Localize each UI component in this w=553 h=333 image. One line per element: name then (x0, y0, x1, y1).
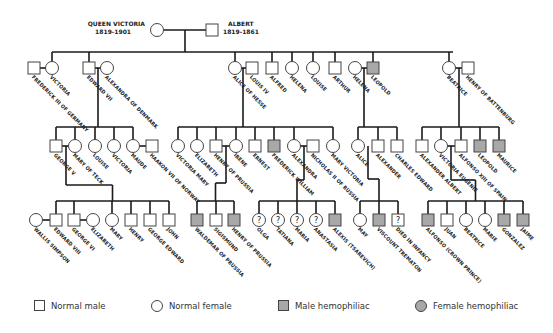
female-normal-symbol (349, 62, 362, 75)
queen-victoria-years: 1819-1901 (55, 28, 145, 36)
male-normal-symbol (416, 140, 428, 152)
shaded-circle-icon (415, 300, 427, 312)
legend: Normal male Normal female Male hemophili… (0, 300, 553, 320)
male-normal-symbol (28, 62, 40, 74)
queen-victoria-symbol (151, 24, 164, 37)
legend-label: Male hemophiliac (295, 301, 370, 311)
legend-normal-male: Normal male (34, 300, 106, 311)
male-normal-symbol (372, 140, 384, 152)
legend-male-hemophiliac: Male hemophiliac (278, 300, 370, 311)
male-affected-symbol (268, 140, 280, 152)
male-normal-symbol (391, 140, 403, 152)
male-affected-symbol (493, 140, 505, 152)
male-affected-symbol (191, 214, 203, 226)
female-normal-symbol (352, 140, 365, 153)
male-affected-symbol (517, 214, 529, 226)
albert-years: 1819-1861 (223, 28, 259, 36)
male-affected-symbol (474, 140, 486, 152)
legend-label: Female hemophiliac (433, 301, 518, 311)
male-normal-symbol (210, 214, 222, 226)
male-normal-symbol (455, 140, 467, 152)
female-normal-symbol (101, 62, 114, 75)
male-normal-symbol (307, 140, 319, 152)
pedigree-lines (40, 30, 523, 220)
legend-normal-female: Normal female (151, 300, 232, 312)
question-mark-icon: ? (257, 216, 261, 225)
male-affected-symbol (329, 214, 341, 226)
male-normal-symbol (441, 214, 453, 226)
female-normal-symbol (30, 214, 43, 227)
male-normal-symbol (210, 140, 222, 152)
female-normal-symbol (108, 140, 121, 153)
question-mark-icon: ? (396, 216, 400, 225)
female-normal-symbol (191, 140, 204, 153)
female-normal-symbol (286, 62, 299, 75)
female-normal-symbol (354, 214, 367, 227)
female-normal-symbol (46, 62, 59, 75)
male-normal-symbol (144, 214, 156, 226)
male-normal-symbol (50, 140, 62, 152)
circle-icon (151, 300, 163, 312)
legend-label: Normal male (51, 301, 106, 311)
male-affected-symbol (228, 214, 240, 226)
legend-female-hemophiliac: Female hemophiliac (415, 300, 518, 312)
male-normal-symbol (68, 214, 80, 226)
male-normal-symbol (146, 140, 158, 152)
female-normal-symbol (288, 140, 301, 153)
female-normal-symbol (307, 62, 320, 75)
female-normal-symbol (230, 140, 243, 153)
male-affected-symbol (367, 62, 379, 74)
male-affected-symbol (422, 214, 434, 226)
queen-victoria-name: QUEEN VICTORIA (55, 20, 145, 28)
male-normal-symbol (163, 214, 175, 226)
female-normal-symbol (327, 140, 340, 153)
female-normal-symbol (460, 214, 473, 227)
male-normal-symbol (125, 214, 137, 226)
legend-label: Normal female (169, 301, 232, 311)
male-affected-symbol (373, 214, 385, 226)
founder-female-label: QUEEN VICTORIA 1819-1901 (55, 20, 145, 36)
female-normal-symbol (229, 62, 242, 75)
female-normal-symbol (106, 214, 119, 227)
pedigree-symbols: ????? (28, 24, 529, 227)
male-normal-symbol (246, 62, 258, 74)
question-mark-icon: ? (276, 216, 280, 225)
albert-name: ALBERT (223, 20, 259, 28)
female-normal-symbol (443, 62, 456, 75)
male-normal-symbol (266, 62, 278, 74)
male-normal-symbol (249, 140, 261, 152)
founder-male-label: ALBERT 1819-1861 (223, 20, 259, 36)
albert-symbol (206, 24, 218, 36)
female-normal-symbol (479, 214, 492, 227)
shaded-square-icon (278, 300, 289, 311)
female-normal-symbol (69, 140, 82, 153)
female-normal-symbol (435, 140, 448, 153)
female-normal-symbol (87, 214, 100, 227)
square-icon (34, 300, 45, 311)
question-mark-icon: ? (314, 216, 318, 225)
male-affected-symbol (498, 214, 510, 226)
male-normal-symbol (462, 62, 474, 74)
male-normal-symbol (50, 214, 62, 226)
female-normal-symbol (89, 140, 102, 153)
male-normal-symbol (83, 62, 95, 74)
female-normal-symbol (127, 140, 140, 153)
male-normal-symbol (329, 62, 341, 74)
question-mark-icon: ? (295, 216, 299, 225)
female-normal-symbol (172, 140, 185, 153)
